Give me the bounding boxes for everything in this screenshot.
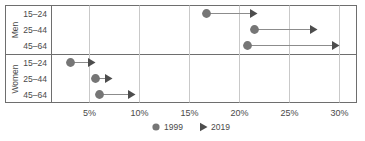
x-tick-15%: 15% — [180, 108, 198, 118]
marker-2019 — [88, 58, 96, 67]
marker-2019 — [128, 90, 136, 99]
data-point-group — [250, 25, 317, 34]
dumbbell-chart: Men Women 15–24 25–44 45–64 15–24 25–44 … — [0, 0, 365, 141]
group-label-women: Women — [10, 64, 20, 93]
marker-2019 — [105, 74, 113, 83]
x-tick-30%: 30% — [330, 108, 348, 118]
marker-1999 — [95, 90, 104, 99]
category-label-men-45-64: 45–64 — [23, 41, 47, 51]
marker-2019 — [310, 25, 318, 34]
x-tick-25%: 25% — [280, 108, 298, 118]
x-axis-tick-labels: 5%10%15%20%25%30% — [83, 108, 349, 118]
category-label-women-45-64: 45–64 — [23, 90, 47, 100]
data-point-group — [66, 58, 95, 67]
category-label-women-25-44: 25–44 — [23, 74, 47, 84]
legend: 1999 2019 — [152, 122, 230, 132]
category-label-men-15-24: 15–24 — [23, 9, 47, 19]
data-point-group — [243, 41, 339, 50]
data-point-group — [202, 9, 257, 18]
data-point-group — [91, 74, 112, 83]
marker-2019 — [332, 41, 340, 50]
x-tick-10%: 10% — [130, 108, 148, 118]
x-tick-20%: 20% — [230, 108, 248, 118]
legend-label-2019: 2019 — [211, 122, 230, 132]
marker-2019 — [250, 9, 258, 18]
marker-1999 — [250, 25, 259, 34]
legend-marker-2019 — [200, 123, 208, 131]
chart-container: Men Women 15–24 25–44 45–64 15–24 25–44 … — [0, 0, 365, 141]
legend-label-1999: 1999 — [164, 122, 183, 132]
marker-1999 — [243, 41, 252, 50]
group-label-men: Men — [10, 21, 20, 38]
marker-1999 — [66, 58, 75, 67]
x-tick-5%: 5% — [83, 108, 96, 118]
category-label-men-25-44: 25–44 — [23, 25, 47, 35]
marker-1999 — [91, 74, 100, 83]
legend-marker-1999 — [152, 123, 159, 130]
category-label-women-15-24: 15–24 — [23, 58, 47, 68]
data-point-group — [95, 90, 135, 99]
marker-1999 — [202, 9, 211, 18]
